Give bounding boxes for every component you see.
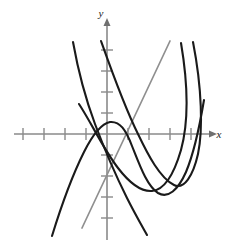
right-valley-curve: [79, 43, 187, 191]
y-axis-arrowhead: [104, 18, 111, 26]
x-axis-label: x: [216, 128, 222, 140]
graph-figure: x y: [0, 0, 233, 247]
coordinate-plot: x y: [0, 0, 233, 247]
y-axis-label: y: [98, 7, 104, 19]
wide-arch-curve: [52, 100, 204, 236]
